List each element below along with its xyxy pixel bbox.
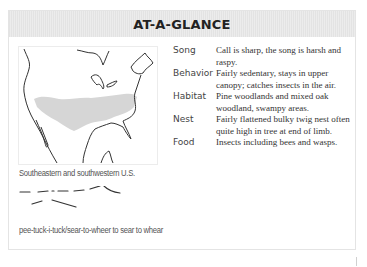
fact-value: Fairly sedentary, stays in upper canopy;… xyxy=(216,68,353,91)
fact-label: Song xyxy=(173,45,216,68)
song-phonetic-caption: pee-tuck-i-tuck/sear-to-wheer to sear to… xyxy=(19,225,163,235)
fact-label: Nest xyxy=(173,114,216,137)
range-caption: Southeastern and southwestern U.S. xyxy=(19,168,135,178)
north-america-map-icon xyxy=(19,47,157,164)
fact-value: Pine woodlands and mixed oak woodland, s… xyxy=(216,91,353,114)
fact-behavior: Behavior Fairly sedentary, stays in uppe… xyxy=(173,68,353,91)
fact-food: Food Insects including bees and wasps. xyxy=(173,137,353,149)
fact-song: Song Call is sharp, the song is harsh an… xyxy=(173,45,353,68)
fact-label: Behavior xyxy=(173,68,216,91)
range-map xyxy=(18,46,158,165)
panel-header: AT-A-GLANCE xyxy=(9,11,355,37)
fact-habitat: Habitat Pine woodlands and mixed oak woo… xyxy=(173,91,353,114)
panel-title: AT-A-GLANCE xyxy=(133,17,230,32)
fact-value: Call is sharp, the song is harsh and ras… xyxy=(216,45,353,68)
song-sonogram-icon xyxy=(18,186,148,214)
fact-value: Insects including bees and wasps. xyxy=(216,137,337,149)
at-a-glance-panel: AT-A-GLANCE Southeastern and southwester… xyxy=(8,10,356,250)
facts-list: Song Call is sharp, the song is harsh an… xyxy=(173,45,353,149)
fact-nest: Nest Fairly flattened bulky twig nest of… xyxy=(173,114,353,137)
fact-label: Habitat xyxy=(173,91,216,114)
fact-label: Food xyxy=(173,137,216,149)
fact-value: Fairly flattened bulky twig nest often q… xyxy=(216,114,353,137)
page-edge-mark xyxy=(356,257,357,266)
